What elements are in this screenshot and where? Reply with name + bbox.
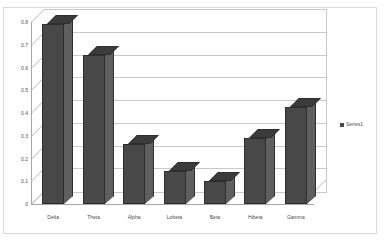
bar-beta[interactable]	[204, 181, 226, 204]
bar-hibeta[interactable]	[244, 138, 266, 204]
value-axis-tick-label: 0.5	[4, 88, 28, 93]
legend-label-series1: Series1	[346, 122, 363, 127]
value-axis-tick-label: 0.7	[4, 43, 28, 48]
bar-top-face	[209, 172, 240, 181]
bar-front-face	[204, 181, 226, 204]
bar-top-face	[249, 129, 280, 138]
value-axis-tick-label: 0.1	[4, 179, 28, 184]
bar-delta[interactable]	[42, 24, 64, 204]
chart-plot-area: 00.10.20.30.40.50.60.70.8 DeltaThetaAlph…	[4, 8, 378, 235]
category-label-gamma: Gamma	[275, 214, 317, 220]
bar-side-face	[266, 130, 275, 204]
bar-side-face	[105, 47, 114, 204]
value-axis-line	[31, 22, 32, 204]
axis-depth-connector	[31, 9, 44, 22]
bar-alpha[interactable]	[123, 144, 145, 204]
category-label-beta: Beta	[194, 214, 236, 220]
value-axis-tick-label: 0.6	[4, 66, 28, 71]
bar-gamma[interactable]	[285, 107, 307, 204]
bar-top-face	[128, 135, 159, 144]
category-label-hibeta: Hibeta	[234, 214, 276, 220]
bar-front-face	[244, 138, 266, 204]
category-label-lobeta: Lobeta	[154, 214, 196, 220]
value-axis-tick-label: 0.3	[4, 134, 28, 139]
bar-side-face	[307, 99, 316, 204]
bar-front-face	[285, 107, 307, 204]
legend-swatch-series1	[340, 123, 344, 127]
chart-legend: Series1	[340, 122, 363, 127]
category-label-delta: Delta	[32, 214, 74, 220]
category-axis-line	[31, 204, 314, 205]
gridline	[44, 32, 327, 33]
category-label-theta: Theta	[73, 214, 115, 220]
value-axis-tick-label: 0.8	[4, 20, 28, 25]
value-axis-tick-label: 0.4	[4, 111, 28, 116]
category-label-alpha: Alpha	[113, 214, 155, 220]
bar-front-face	[42, 24, 64, 204]
value-axis-tick-label: 0.2	[4, 157, 28, 162]
bar-top-face	[47, 15, 78, 24]
bar-lobeta[interactable]	[164, 171, 186, 204]
value-axis-tick-label: 0	[4, 202, 28, 207]
bar-front-face	[83, 55, 105, 204]
bar-front-face	[123, 144, 145, 204]
chart-frame: 00.10.20.30.40.50.60.70.8 DeltaThetaAlph…	[3, 7, 377, 234]
bar-side-face	[64, 16, 73, 204]
bar-side-face	[145, 136, 154, 204]
gridline	[44, 9, 327, 10]
bar-theta[interactable]	[83, 55, 105, 204]
bar-front-face	[164, 171, 186, 204]
